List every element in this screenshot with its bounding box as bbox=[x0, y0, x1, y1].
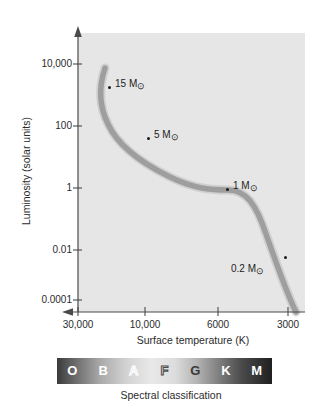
main-sequence-curve bbox=[100, 68, 296, 312]
data-point-5-msun bbox=[147, 137, 150, 140]
x-tick-label-3000: 3000 bbox=[277, 320, 299, 330]
spectral-class-b: B bbox=[88, 358, 119, 384]
x-axis-title: Surface temperature (K) bbox=[0, 334, 326, 346]
spectral-classification-caption: Spectral classification bbox=[0, 389, 326, 401]
y-tick-label-10000: 10,000 bbox=[14, 59, 72, 69]
spectral-classification-bar: O B A F G K M bbox=[57, 358, 272, 384]
x-tick-label-10000: 10,000 bbox=[130, 320, 161, 330]
data-point-1-msun bbox=[226, 188, 229, 191]
spectral-class-f: F bbox=[149, 358, 180, 384]
hr-diagram-figure: 10,000 100 1 0.01 0.0001 30,000 10,000 6… bbox=[0, 0, 326, 409]
spectral-class-a: A bbox=[118, 358, 149, 384]
spectral-class-g: G bbox=[180, 358, 211, 384]
solar-symbol-icon: ⊙ bbox=[250, 183, 258, 193]
x-tick-label-6000: 6000 bbox=[207, 320, 229, 330]
y-axis bbox=[74, 26, 82, 312]
x-tick-label-30000: 30,000 bbox=[63, 320, 94, 330]
spectral-class-o: O bbox=[57, 358, 88, 384]
solar-symbol-icon: ⊙ bbox=[137, 81, 145, 91]
label-1-msun: 1 M⊙ bbox=[233, 181, 258, 191]
y-axis-title: Luminosity (solar units) bbox=[20, 71, 32, 271]
data-point-15-msun bbox=[108, 86, 111, 89]
label-15-msun: 15 M⊙ bbox=[115, 79, 145, 89]
label-5-msun: 5 M⊙ bbox=[154, 130, 179, 140]
solar-symbol-icon: ⊙ bbox=[256, 266, 264, 276]
data-point-0.2-msun bbox=[284, 256, 287, 259]
spectral-class-k: K bbox=[211, 358, 242, 384]
spectral-class-m: M bbox=[241, 358, 272, 384]
x-axis bbox=[62, 308, 305, 316]
solar-symbol-icon: ⊙ bbox=[171, 132, 179, 142]
label-0.2-msun: 0.2 M⊙ bbox=[231, 264, 264, 274]
y-tick-label-0.0001: 0.0001 bbox=[14, 295, 72, 305]
